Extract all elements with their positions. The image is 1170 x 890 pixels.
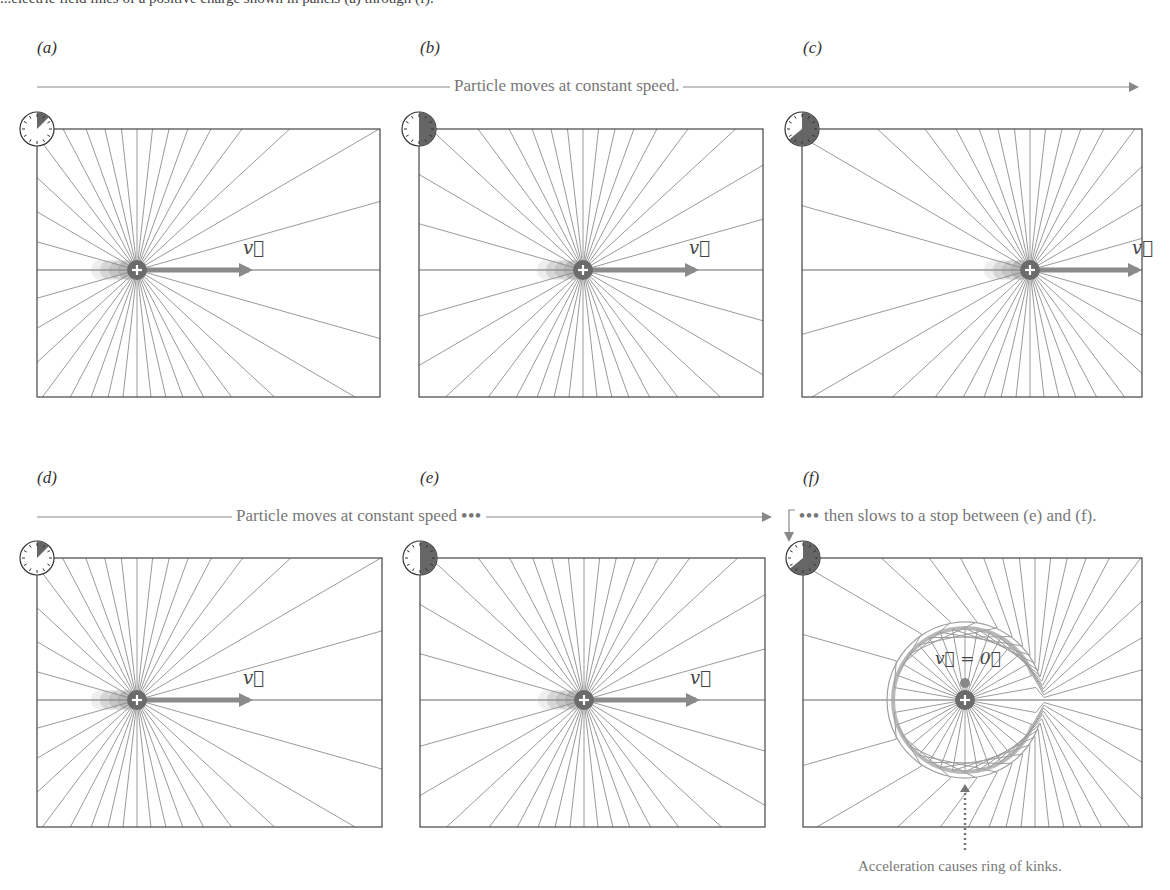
field-lines: [802, 129, 1142, 397]
field-line-outer: [1043, 558, 1141, 689]
field-line-outer: [1044, 703, 1142, 731]
field-line-outer: [881, 558, 951, 622]
panel-frame: [803, 558, 1142, 827]
field-line-kink: [990, 724, 1041, 768]
field-line-outer: [1038, 558, 1050, 670]
flow-text-bottom-left: Particle moves at constant speed •••: [232, 506, 486, 526]
velocity-label: v⃗: [1132, 237, 1153, 258]
field-line-outer: [803, 565, 922, 634]
panel-frame: [37, 129, 380, 397]
clock-icon: [402, 112, 436, 146]
field-line-outer: [817, 766, 922, 827]
acceleration-annotation: Acceleration causes ring of kinks.: [858, 858, 1062, 875]
clock-icon: [20, 541, 54, 575]
field-line: [137, 270, 355, 397]
velocity-label: v⃗: [690, 667, 711, 688]
field-line-outer: [968, 772, 997, 827]
field-line-outer: [803, 739, 896, 765]
field-lines: [420, 558, 765, 827]
flow-text-bottom-right-label: then slows to a stop between (e) and (f)…: [824, 506, 1096, 525]
panel-f: v⃗ = 0⃗: [786, 541, 1142, 827]
clock-icon: [403, 541, 437, 575]
field-lines: [37, 558, 382, 827]
panel-frame: [802, 129, 1142, 397]
field-line-outer: [1038, 730, 1049, 827]
flow-text-top-label: Particle moves at constant speed.: [454, 76, 679, 95]
flow-text-bottom-left-label: Particle moves at constant speed: [236, 506, 457, 525]
field-line-outer: [984, 558, 1012, 637]
panel-frame: [37, 558, 382, 827]
flow-text-bottom-right: ••• then slows to a stop between (e) and…: [795, 506, 1101, 526]
clock-icon: [786, 541, 820, 575]
panel-d: v⃗: [20, 541, 382, 827]
ellipsis-dots: •••: [461, 506, 482, 525]
velocity-label: v⃗: [243, 667, 264, 688]
field-line-outer: [929, 558, 977, 622]
field-line-outer: [1043, 711, 1129, 827]
ellipsis-dots: •••: [799, 506, 820, 525]
field-line-kink: [1001, 719, 1042, 763]
velocity-zero-label: v⃗ = 0⃗: [935, 648, 1001, 668]
field-line-outer: [898, 778, 951, 827]
clock-icon: [785, 112, 819, 146]
flow-text-top: Particle moves at constant speed.: [450, 76, 683, 96]
panel-b: v⃗: [402, 112, 763, 397]
velocity-label: v⃗: [243, 237, 264, 258]
field-line-outer: [1040, 724, 1064, 827]
field-line-outer: [1019, 558, 1030, 655]
panel-c: v⃗: [785, 112, 1153, 397]
previous-position-dot: [960, 678, 970, 688]
panel-e: v⃗: [403, 541, 765, 827]
field-line: [812, 270, 1030, 397]
clock-icon: [20, 112, 54, 146]
field-line-outer: [940, 778, 976, 827]
panel-a: v⃗: [20, 112, 380, 397]
field-line-outer: [961, 558, 998, 628]
field-line: [802, 137, 1030, 270]
field-lines: [419, 129, 763, 397]
field-line-figure: v⃗v⃗v⃗v⃗v⃗v⃗ = 0⃗: [0, 0, 1170, 890]
field-lines: [37, 129, 380, 397]
field-line-outer: [1044, 670, 1142, 698]
field-line-outer: [803, 635, 896, 661]
velocity-label: v⃗: [689, 237, 710, 258]
annotation-arrowhead: [960, 784, 970, 792]
field-lines: [803, 558, 1142, 827]
field-line: [137, 700, 355, 827]
